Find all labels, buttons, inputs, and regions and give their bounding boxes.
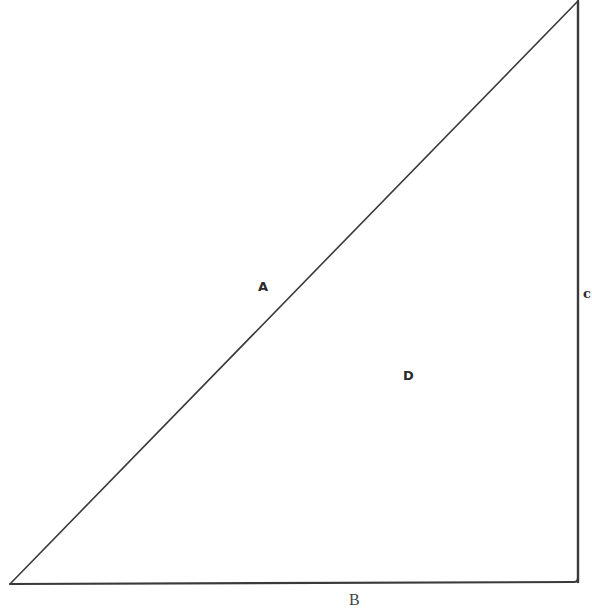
interior-label: D <box>403 369 414 382</box>
hypotenuse-line <box>10 1 578 584</box>
triangle-figure <box>0 0 592 609</box>
hypotenuse-label: A <box>258 280 268 293</box>
triangle-diagram: A c D B <box>0 0 592 609</box>
base-line <box>10 578 578 584</box>
base-label: B <box>349 592 360 608</box>
vertical-side-label: c <box>583 287 591 300</box>
